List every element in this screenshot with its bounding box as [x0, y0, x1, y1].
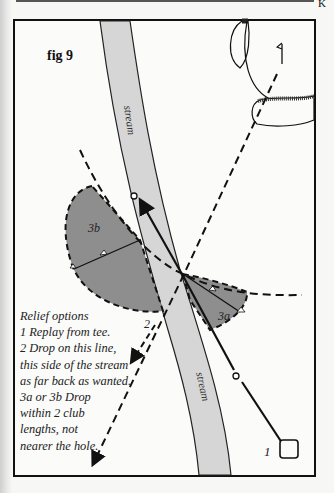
relief-options-notes: Relief options 1 Replay from tee. 2 Drop…: [20, 308, 142, 454]
notes-line: 1 Replay from tee.: [20, 324, 142, 340]
notes-title: Relief options: [20, 308, 142, 324]
notes-line: 3a or 3b Drop: [20, 389, 142, 405]
tee-box: [280, 440, 298, 458]
ball-position-marker: [233, 373, 239, 379]
notes-line: as far back as wanted.: [20, 373, 142, 389]
notes-line: within 2 club: [20, 405, 142, 421]
zone-3a-label: 3a: [217, 309, 230, 323]
ball-landing-marker: [131, 193, 137, 199]
notes-line: 2 Drop on this line,: [20, 340, 142, 356]
notes-line: this side of the stream: [20, 357, 142, 373]
figure-label: fig 9: [47, 48, 73, 64]
zone-3b-label: 3b: [87, 221, 100, 235]
notes-line: nearer the hole.: [20, 438, 142, 454]
tee-label: 1: [264, 444, 271, 459]
option-2-label: 2: [144, 317, 150, 331]
notes-line: lengths, not: [20, 421, 142, 437]
